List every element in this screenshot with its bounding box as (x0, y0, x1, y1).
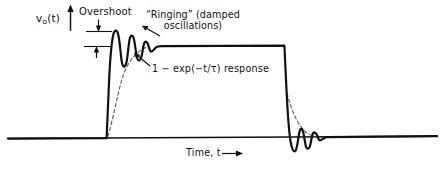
ringing-label: “Ringing” (dampedoscillations) (146, 9, 240, 32)
y-axis-label-subscript: o (42, 17, 47, 26)
ringing-label-line1: “Ringing” (damped (146, 9, 240, 20)
overshoot-reference-lines (84, 32, 112, 47)
time-axis-label: Time, t (186, 147, 221, 158)
y-axis-arrow (67, 5, 73, 32)
figure-step-response: vo(t) Overshoot “Ringing” (dampedoscilla… (0, 0, 445, 177)
exponential-fall-dashed (287, 93, 322, 138)
time-axis-arrow (222, 150, 243, 156)
overshoot-label: Overshoot (79, 6, 132, 18)
y-axis-label: vo(t) (36, 12, 60, 25)
ringing-label-line2: oscillations) (146, 20, 240, 31)
y-axis-label-tail: (t) (47, 12, 60, 24)
exponential-response-label: 1 − exp(−t/τ) response (152, 63, 269, 74)
step-response-trace (8, 31, 437, 152)
overshoot-arrows (94, 20, 101, 59)
